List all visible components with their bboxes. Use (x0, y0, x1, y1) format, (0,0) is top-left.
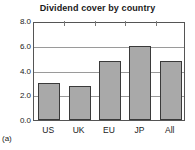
y-axis-tick-label: 8.0 (2, 18, 31, 26)
bar (160, 61, 182, 120)
y-axis-tick-labels: 8.06.04.02.00.0 (0, 0, 31, 150)
x-axis-tick-label: US (33, 126, 63, 135)
chart-figure: Dividend cover by country 8.06.04.02.00.… (0, 0, 195, 150)
bar (99, 61, 121, 120)
gridline (34, 47, 184, 48)
y-axis-tick-label: 6.0 (2, 43, 31, 51)
plot-area (33, 22, 185, 121)
x-axis-tick (64, 21, 65, 26)
x-axis-tick (156, 21, 157, 26)
x-axis-tick (125, 21, 126, 26)
panel-caption: (a) (2, 134, 12, 143)
y-axis-tick-label: 4.0 (2, 68, 31, 76)
x-axis-tick-label: JP (124, 126, 154, 135)
x-axis-tick-label: EU (94, 126, 124, 135)
y-axis-tick-label: 2.0 (2, 92, 31, 100)
y-axis-tick-label: 0.0 (2, 117, 31, 125)
x-axis-tick-label: All (155, 126, 185, 135)
bar (38, 83, 60, 120)
bar (69, 86, 91, 120)
x-axis-tick (95, 21, 96, 26)
x-axis-tick-label: UK (63, 126, 93, 135)
bar (129, 46, 151, 120)
